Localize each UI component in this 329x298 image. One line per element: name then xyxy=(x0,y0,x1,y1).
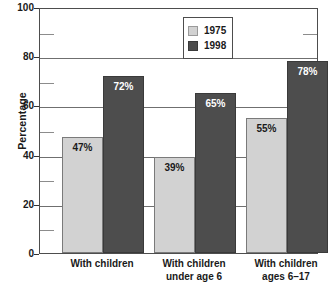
x-label-with-children-ages-6-17: With children ages 6–17 xyxy=(223,258,329,283)
legend: 1975 1998 xyxy=(183,17,233,59)
bar-1975-with-children-ages-6-17[interactable]: 55% xyxy=(246,118,287,253)
bar-value-label: 65% xyxy=(196,99,235,109)
legend-label-1975: 1975 xyxy=(204,26,226,36)
bar-1975-with-children-under-age-6[interactable]: 39% xyxy=(154,157,195,253)
bar-1998-with-children-under-age-6[interactable]: 65% xyxy=(195,93,236,253)
bars-layer: 47% 72% 39% 65% 55% 78% xyxy=(40,9,317,253)
y-tick-label-40: 40 xyxy=(8,151,34,161)
y-tick-label-0: 0 xyxy=(8,249,34,259)
bar-value-label: 55% xyxy=(247,124,286,134)
bar-value-label: 47% xyxy=(63,143,102,153)
legend-label-1998: 1998 xyxy=(204,41,226,51)
y-axis-tick-labels: 100 80 60 40 20 0 xyxy=(8,8,34,254)
y-tick-label-80: 80 xyxy=(8,52,34,62)
bar-value-label: 78% xyxy=(288,67,327,77)
x-axis-labels: With children With children under age 6 … xyxy=(39,258,318,294)
bar-1998-with-children-ages-6-17[interactable]: 78% xyxy=(287,61,328,253)
bar-1998-with-children[interactable]: 72% xyxy=(103,76,144,253)
x-label-line-1: With children xyxy=(223,258,329,271)
bar-value-label: 39% xyxy=(155,163,194,173)
x-label-line-2: ages 6–17 xyxy=(223,271,329,284)
light-gray-swatch-icon xyxy=(188,26,198,36)
y-tick-label-100: 100 xyxy=(8,3,34,13)
y-tick-label-60: 60 xyxy=(8,101,34,111)
y-tick-mark-0 xyxy=(34,254,39,255)
dark-gray-swatch-icon xyxy=(188,41,198,51)
plot-area: 47% 72% 39% 65% 55% 78% xyxy=(39,8,318,254)
bar-value-label: 72% xyxy=(104,82,143,92)
y-tick-label-20: 20 xyxy=(8,200,34,210)
legend-item-1975[interactable]: 1975 xyxy=(188,23,232,38)
legend-item-1998[interactable]: 1998 xyxy=(188,38,232,53)
bar-chart: Percentage 100 80 60 40 20 0 xyxy=(0,0,329,298)
bar-1975-with-children[interactable]: 47% xyxy=(62,137,103,253)
